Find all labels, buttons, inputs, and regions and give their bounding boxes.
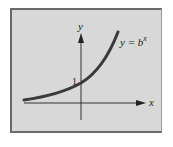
y-intercept-label: 1: [72, 76, 77, 87]
x-axis-arrow-icon: [136, 100, 146, 106]
curve-label: y = bx: [119, 34, 147, 48]
y-axis-label: y: [77, 20, 83, 32]
x-axis-label: x: [148, 96, 154, 108]
y-axis-arrow-icon: [78, 33, 84, 43]
exponential-graph: x y 1 y = bx: [0, 0, 173, 147]
exponential-curve: [24, 32, 118, 100]
curve-label-base: y = b: [119, 36, 144, 48]
curve-label-exponent: x: [142, 34, 147, 43]
